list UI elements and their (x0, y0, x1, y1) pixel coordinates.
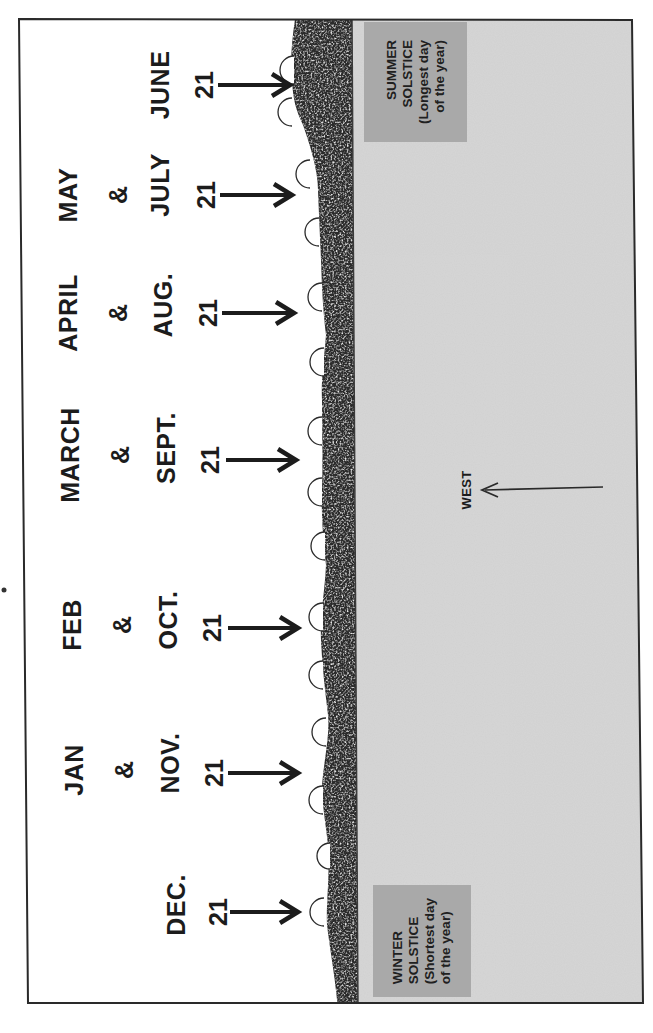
sun-icon (311, 532, 325, 560)
ampersand-label: & (106, 304, 131, 322)
top-month-label: MARCH (58, 407, 83, 503)
date-arrows (218, 74, 298, 923)
sun-icon (310, 348, 324, 376)
sun-icon (312, 718, 326, 746)
sun-icon (278, 98, 292, 126)
arrow-right-icon (220, 184, 292, 206)
top-month-label: MAY (56, 168, 81, 223)
sun-icon (296, 160, 310, 188)
month-label: DEC. (164, 874, 189, 936)
winter-solstice-label: WINTER SOLSTICE (Shortest day of the yea… (373, 885, 471, 997)
west-direction-label: WEST (459, 471, 474, 510)
day-label: 21 (200, 614, 225, 642)
month-label: OCT. (156, 591, 181, 650)
ampersand-label: & (112, 761, 137, 779)
month-label: SEPT. (154, 412, 179, 484)
day-label: 21 (198, 446, 223, 474)
day-label: 21 (202, 759, 227, 787)
arrow-right-icon (226, 449, 296, 471)
day-label: 21 (194, 181, 219, 209)
month-label: NOV. (158, 733, 183, 794)
diagram-graphics (0, 0, 653, 1033)
month-label: AUG. (151, 273, 176, 338)
day-label: 21 (196, 299, 221, 327)
arrow-right-icon (218, 74, 290, 96)
ampersand-label: & (110, 616, 135, 634)
sun-icon (308, 478, 322, 506)
sun-icon (308, 283, 322, 311)
sunrise-position-diagram: JUNE 21 MAY & JULY 21 APRIL & AUG. 21 MA… (0, 0, 653, 1033)
month-label: JULY (148, 153, 173, 217)
ampersand-label: & (106, 186, 131, 204)
arrow-right-icon (230, 901, 298, 923)
scan-artifact-dot (2, 588, 7, 593)
top-month-label: JAN (62, 744, 87, 796)
sun-icon (317, 843, 330, 869)
top-month-label: APRIL (56, 274, 81, 352)
sun-icon (305, 218, 319, 246)
day-label: 21 (206, 898, 231, 926)
sun-icon (309, 661, 323, 689)
arrow-right-icon (228, 762, 298, 784)
sun-icon (309, 786, 323, 814)
arrow-right-icon (222, 302, 294, 324)
summer-solstice-label: SUMMER SOLSTICE (Longest day of the year… (364, 22, 467, 142)
arrow-right-icon (228, 617, 298, 639)
sun-icon (309, 603, 323, 631)
ampersand-label: & (108, 446, 133, 464)
day-label: 21 (192, 71, 217, 99)
top-month-label: FEB (60, 599, 85, 651)
sun-icon (310, 898, 324, 926)
sun-icon (308, 417, 322, 445)
month-label: JUNE (148, 51, 173, 120)
